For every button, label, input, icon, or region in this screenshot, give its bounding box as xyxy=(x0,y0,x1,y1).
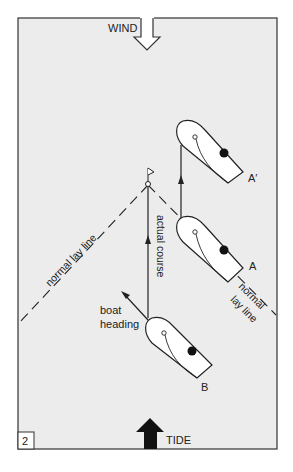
sailing-diagram: WIND normal lay line normal lay line act… xyxy=(0,0,293,472)
boat-heading-label-1: boat xyxy=(100,304,121,316)
boat-heading-label-2: heading xyxy=(100,318,139,330)
tide-label: TIDE xyxy=(166,434,191,446)
figure-number: 2 xyxy=(22,435,28,447)
boat-a-prime-label: A′ xyxy=(248,172,257,184)
actual-course-label: actual course xyxy=(155,215,167,278)
wind-label: WIND xyxy=(108,22,137,34)
boat-a-label: A xyxy=(249,260,257,272)
boat-b-label: B xyxy=(201,381,208,393)
